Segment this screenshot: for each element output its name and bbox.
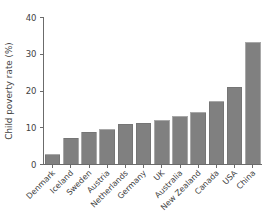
y-axis-tick-label: 40 [26, 13, 37, 23]
bar [209, 102, 224, 165]
bar [173, 117, 188, 165]
y-axis-tick-label: 30 [26, 49, 37, 59]
bar [191, 113, 206, 165]
chart-container: 010203040 DenmarkIcelandSwedenAustriaNet… [0, 0, 276, 223]
y-axis-tick-label: 0 [31, 160, 36, 170]
x-axis-category-label: China [235, 168, 258, 191]
bar [100, 130, 115, 165]
bar [118, 124, 133, 164]
y-axis-tick-label: 20 [26, 86, 37, 96]
bar [227, 87, 242, 164]
x-axis-category-labels: DenmarkIcelandSwedenAustriaNetherlandsGe… [25, 168, 258, 212]
y-axis-ticks: 010203040 [26, 13, 44, 170]
x-axis-category-label: UK [152, 168, 167, 183]
bar [82, 132, 97, 164]
y-axis-title: Child poverty rate (%) [4, 42, 14, 140]
bar [45, 155, 60, 165]
y-axis-tick-label: 10 [26, 123, 37, 133]
bar [246, 43, 261, 165]
bars-group [45, 43, 260, 165]
bar [64, 138, 79, 164]
bar [155, 121, 170, 165]
bar [136, 123, 151, 164]
bar-chart: 010203040 DenmarkIcelandSwedenAustriaNet… [0, 0, 276, 223]
